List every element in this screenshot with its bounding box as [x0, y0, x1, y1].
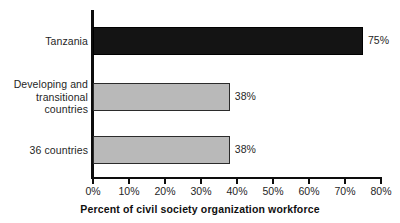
bar-value-label: 38%: [235, 90, 256, 102]
bar: [93, 27, 363, 55]
x-axis-tick-label: 20%: [154, 185, 175, 197]
x-axis-tick: [200, 179, 202, 184]
x-axis-tick: [308, 179, 310, 184]
x-axis-tick-label: 80%: [370, 185, 391, 197]
x-axis-tick-label: 70%: [334, 185, 355, 197]
x-axis-tick-label: 40%: [226, 185, 247, 197]
bar-chart: Tanzania Developing and transitional cou…: [0, 0, 400, 223]
bar: [93, 83, 230, 111]
x-axis-tick: [380, 179, 382, 184]
category-label: 36 countries: [30, 144, 88, 157]
x-axis-tick-label: 50%: [262, 185, 283, 197]
x-axis-tick: [344, 179, 346, 184]
x-axis-tick: [272, 179, 274, 184]
x-axis-tick: [92, 179, 94, 184]
x-axis-tick-label: 0%: [85, 185, 100, 197]
bar: [93, 136, 230, 164]
x-axis-tick-label: 60%: [298, 185, 319, 197]
x-axis-tick-label: 10%: [118, 185, 139, 197]
bar-value-label: 38%: [235, 143, 256, 155]
x-axis-tick: [164, 179, 166, 184]
x-axis-tick: [236, 179, 238, 184]
x-axis-title: Percent of civil society organization wo…: [0, 203, 400, 215]
bar-value-label: 75%: [368, 34, 389, 46]
x-axis-tick: [128, 179, 130, 184]
category-label: Developing and transitional countries: [14, 78, 88, 116]
category-label: Tanzania: [45, 35, 88, 48]
x-axis-tick-label: 30%: [190, 185, 211, 197]
